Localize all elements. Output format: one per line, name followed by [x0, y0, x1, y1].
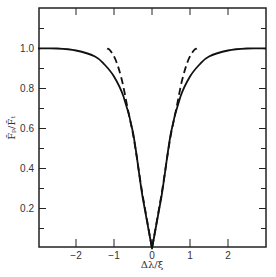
y-tick-label: 0.4: [20, 163, 34, 174]
x-tick-label: −1: [108, 250, 120, 261]
y-tick-label: 0.8: [20, 83, 34, 94]
x-axis-label: Δλ/ξ: [141, 259, 164, 270]
y-tick-label: 0.2: [20, 203, 34, 214]
y-axis-label: F̄ₚ/F̄ₜ: [6, 116, 17, 140]
x-tick-label: 1: [187, 250, 193, 261]
y-tick-label: 0.6: [20, 123, 34, 134]
dashed-curve: [107, 49, 197, 249]
x-tick-label: −2: [70, 250, 82, 261]
series-layer: [38, 48, 266, 248]
plot-frame: [39, 8, 266, 247]
y-tick-label: 1.0: [20, 43, 34, 54]
x-axis-ticks: −2−1012: [70, 8, 231, 261]
line-chart: 0.20.40.60.81.0 −2−1012 Δλ/ξ F̄ₚ/F̄ₜ: [0, 0, 276, 277]
x-tick-label: 2: [225, 250, 231, 261]
solid-curve: [38, 48, 266, 248]
